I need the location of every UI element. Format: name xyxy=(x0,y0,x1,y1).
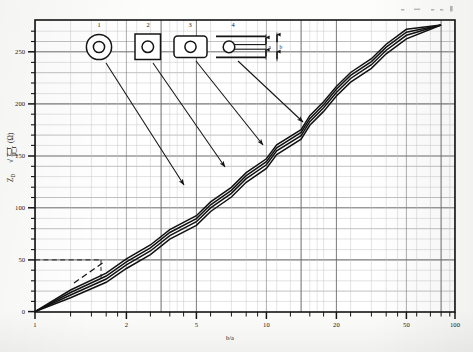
x-tick-label-5: 5 xyxy=(195,321,199,328)
y-axis-title-unit: (Ω) xyxy=(7,132,15,143)
x-tick-label-100: 100 xyxy=(450,321,461,328)
y-axis-title-symbol: ZD xyxy=(7,174,16,182)
x-tick-label-20: 20 xyxy=(333,321,340,328)
circle-in-circle-icon xyxy=(86,34,111,59)
scan-artifact-marks xyxy=(401,6,453,11)
y-tick-label-200: 200 xyxy=(15,100,26,107)
y-axis-title-fraction: ε_r μ_r xyxy=(5,146,18,157)
x-tick-label-50: 50 xyxy=(403,321,410,328)
x-tick-label-1: 1 xyxy=(33,321,36,328)
y-axis-title-denominator: μ_r xyxy=(10,146,18,156)
chart-svg: 0 50 100 150 200 250 ZD √ ε_r μ_r xyxy=(0,0,473,352)
legend-number-2: 2 xyxy=(146,21,149,28)
y-tick-label-0: 0 xyxy=(22,308,26,315)
legend-number-1: 1 xyxy=(97,21,100,28)
x-tick-label-2: 2 xyxy=(125,321,128,328)
legend-number-3: 3 xyxy=(188,21,191,28)
x-tick-major xyxy=(35,312,455,319)
scanned-figure-page: 0 50 100 150 200 250 ZD √ ε_r μ_r xyxy=(0,0,473,352)
y-tick-major xyxy=(28,52,35,312)
y-axis: 0 50 100 150 200 250 xyxy=(15,31,35,315)
y-tick-label-50: 50 xyxy=(18,256,25,263)
y-tick-label-250: 250 xyxy=(15,48,26,55)
x-axis: 1 2 5 10 20 50 100 b/a xyxy=(33,312,460,341)
circle-in-rounded-rect-icon xyxy=(174,36,207,58)
y-tick-label-100: 100 xyxy=(15,204,26,211)
dimension-label-b: b xyxy=(279,44,282,50)
plot-grid xyxy=(35,20,455,312)
y-axis-title-radical: √ xyxy=(7,159,15,163)
circle-in-square-icon xyxy=(135,34,161,60)
x-tick-label-10: 10 xyxy=(263,321,270,328)
impedance-nomogram-figure: 0 50 100 150 200 250 ZD √ ε_r μ_r xyxy=(0,0,473,352)
x-axis-title: b/a xyxy=(226,334,234,341)
